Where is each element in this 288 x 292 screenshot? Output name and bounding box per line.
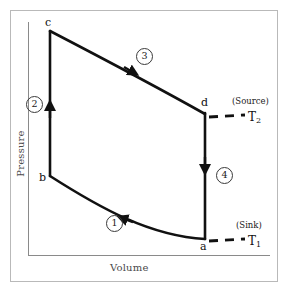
source-temperature-symbol: T (248, 110, 256, 124)
sink-temperature-symbol: T (248, 234, 256, 248)
sink-temperature-subscript: 1 (256, 240, 261, 249)
sink-reservoir-label: (Sink) (236, 220, 262, 230)
dashed-isotherm-source (209, 115, 245, 117)
source-temperature-subscript: 2 (256, 116, 261, 125)
point-label-b: b (39, 171, 46, 184)
step-badge-4: 4 (216, 167, 233, 184)
curve-isotherm-upper-c-to-d (50, 31, 205, 114)
source-temperature-label: T2 (248, 110, 261, 124)
point-label-a: a (200, 240, 207, 253)
curve-isotherm-lower-a-to-b (50, 176, 205, 239)
sink-temperature-label: T1 (248, 234, 261, 248)
step-badge-3: 3 (136, 48, 153, 65)
carnot-cycle-plot (0, 0, 288, 292)
step-badge-2: 2 (26, 96, 43, 113)
dashed-isotherm-sink (209, 239, 245, 241)
figure-canvas: Pressure Volume c d a b 1 2 3 4 (Source) (0, 0, 288, 292)
point-label-c: c (45, 16, 51, 29)
point-label-d: d (201, 96, 208, 109)
step-badge-1: 1 (106, 215, 123, 232)
source-reservoir-label: (Source) (232, 96, 269, 106)
